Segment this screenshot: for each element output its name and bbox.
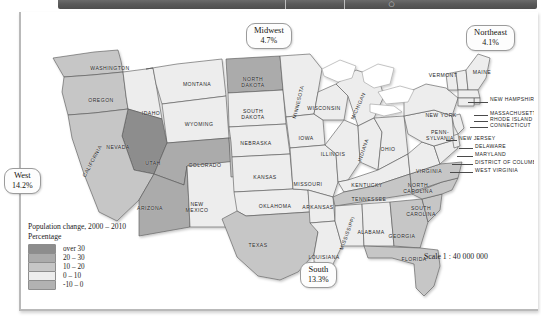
- state-rhode-island: [474, 98, 480, 104]
- state-massachusetts: [458, 90, 480, 98]
- state-label-west-virginia: WEST VIRGINIA: [475, 167, 518, 173]
- region-callout-south[interactable]: South13.3%: [300, 262, 337, 288]
- region-callout-midwest[interactable]: Midwest4.7%: [246, 23, 292, 49]
- region-callout-northeast[interactable]: Northeast4.1%: [466, 25, 515, 51]
- legend-row-1[interactable]: 20 – 30: [28, 253, 208, 262]
- state-label-virginia: VIRGINIA: [416, 168, 442, 174]
- legend-label-0: over 30: [63, 245, 85, 253]
- app-toolbar[interactable]: ○: [58, 0, 537, 9]
- state-label-wisconsin: WISCONSIN: [307, 105, 340, 111]
- region-name-south: South: [308, 265, 329, 275]
- state-wyoming: [162, 96, 229, 143]
- state-label-nebraska: NEBRASKA: [240, 140, 271, 146]
- legend-swatch-4: [28, 280, 56, 290]
- state-label-louisiana: LOUISIANA: [308, 254, 339, 260]
- state-label-new-jersey: NEW JERSEY: [459, 135, 496, 141]
- leader-line-new-hampshire: [468, 102, 488, 103]
- leader-line-maryland: [457, 156, 473, 157]
- state-label-illinois: ILLINOIS: [321, 151, 346, 157]
- legend-label-3: 0 – 10: [63, 272, 81, 280]
- state-label-kentucky: KENTUCKY: [351, 182, 382, 188]
- legend-label-1: 20 – 30: [63, 254, 85, 262]
- state-label-wyoming: WYOMING: [185, 121, 214, 127]
- state-label-alabama: ALABAMA: [357, 229, 384, 235]
- state-label-colorado: COLORADO: [189, 162, 222, 168]
- leader-line-rhode-island: [474, 121, 488, 122]
- legend-row-3[interactable]: 0 – 10: [28, 271, 208, 280]
- state-label-washington: WASHINGTON: [90, 65, 129, 71]
- state-label-montana: MONTANA: [183, 81, 211, 87]
- state-label-oklahoma: OKLAHOMA: [259, 203, 291, 209]
- toolbar-circle-icon[interactable]: ○: [388, 1, 395, 8]
- state-kansas: [232, 154, 293, 192]
- region-value-midwest: 4.7%: [254, 36, 284, 45]
- state-label-utah: UTAH: [145, 160, 160, 166]
- map-legend: Population change, 2000 – 2010 Percentag…: [28, 222, 208, 289]
- state-label-south-dakota: SOUTH DAKOTA: [241, 108, 264, 120]
- state-label-north-dakota: NORTH DAKOTA: [241, 76, 264, 88]
- legend-label-2: 10 – 20: [63, 263, 85, 271]
- state-label-maine: MAINE: [473, 69, 491, 75]
- state-label-kansas: KANSAS: [253, 174, 276, 180]
- state-label-district-of-columbia: DISTRICT OF COLUMBIA: [475, 159, 534, 165]
- leader-line-connecticut: [470, 127, 488, 128]
- state-label-oregon: OREGON: [88, 97, 113, 103]
- region-callout-west[interactable]: West14.2%: [4, 168, 41, 194]
- legend-title-line-2: Percentage: [28, 232, 208, 242]
- state-label-missouri: MISSOURI: [294, 181, 323, 187]
- state-label-new-hampshire: NEW HAMPSHIRE: [490, 96, 534, 102]
- state-oregon: [62, 72, 128, 115]
- state-label-texas: TEXAS: [249, 242, 268, 248]
- state-label-georgia: GEORGIA: [389, 233, 416, 239]
- map-scale: Scale 1 : 40 000 000: [424, 252, 488, 261]
- state-label-south-carolina: SOUTH CAROLINA: [406, 205, 436, 217]
- legend-row-2[interactable]: 10 – 20: [28, 262, 208, 271]
- leader-line-district-of-columbia: [452, 164, 473, 165]
- legend-row-4[interactable]: -10 – 0: [28, 280, 208, 289]
- state-label-arizona: ARIZONA: [137, 205, 163, 211]
- region-name-midwest: Midwest: [254, 26, 284, 36]
- state-label-connecticut: CONNECTICUT: [490, 122, 531, 128]
- state-label-tennessee: TENNESSEE: [352, 196, 387, 202]
- state-alabama: [362, 202, 394, 246]
- state-label-new-york: NEW YORK: [425, 112, 456, 118]
- leader-line-west-virginia: [450, 172, 473, 173]
- legend-title-line-1: Population change, 2000 – 2010: [28, 222, 208, 232]
- region-value-northeast: 4.1%: [474, 38, 507, 47]
- region-value-west: 14.2%: [12, 181, 33, 190]
- state-label-ohio: OHIO: [381, 146, 396, 152]
- state-label-idaho: IDAHO: [142, 110, 160, 116]
- state-label-new-mexico: NEW MEXICO: [186, 201, 209, 213]
- state-iowa: [286, 114, 325, 148]
- leader-line-delaware: [459, 148, 473, 149]
- state-label-vermont: VERMONT: [429, 72, 458, 78]
- region-name-west: West: [12, 171, 33, 181]
- legend-rows: over 3020 – 3010 – 200 – 10-10 – 0: [28, 244, 208, 289]
- state-label-arkansas: ARKANSAS: [302, 204, 333, 210]
- state-label-florida: FLORIDA: [401, 256, 426, 262]
- state-label-delaware: DELAWARE: [475, 143, 506, 149]
- region-value-south: 13.3%: [308, 275, 329, 284]
- state-label-north-carolina: NORTH CAROLINA: [403, 182, 433, 194]
- map-page: ○: [0, 0, 541, 321]
- region-name-northeast: Northeast: [474, 28, 507, 38]
- leader-line-new-jersey: [446, 140, 457, 141]
- state-label-nevada: NEVADA: [106, 144, 129, 150]
- toolbar-separator-2: [344, 0, 345, 9]
- legend-row-0[interactable]: over 30: [28, 244, 208, 253]
- state-label-iowa: IOWA: [298, 135, 313, 141]
- state-label-maryland: MARYLAND: [475, 151, 506, 157]
- legend-label-4: -10 – 0: [63, 281, 83, 289]
- toolbar-separator-1: [285, 0, 286, 9]
- leader-line-massachusetts: [474, 115, 488, 116]
